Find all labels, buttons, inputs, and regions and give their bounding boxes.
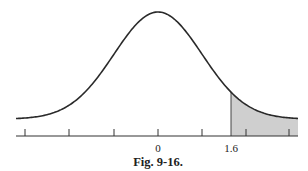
- normal-curve: [16, 12, 298, 119]
- normal-distribution-figure: 0 1.6 Fig. 9-16.: [0, 0, 308, 171]
- tick-label-zero: 0: [155, 142, 161, 154]
- figure-caption: Fig. 9-16.: [133, 155, 183, 169]
- tick-label-critical: 1.6: [224, 142, 238, 154]
